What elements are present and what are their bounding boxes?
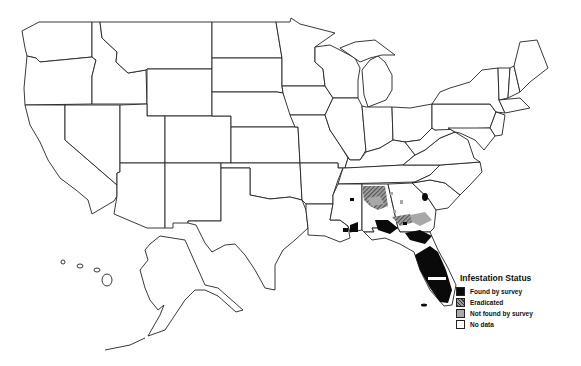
- keys-found: [421, 304, 427, 307]
- state-south-dakota: [212, 58, 283, 93]
- legend-item-found: Found by survey: [456, 286, 576, 297]
- state-massachusetts: [499, 98, 530, 113]
- legend-label: Not found by survey: [470, 310, 533, 317]
- state-washington: [22, 22, 92, 62]
- state-maine: [514, 40, 548, 92]
- legend-item-no-data: No data: [456, 319, 576, 330]
- legend-item-not-found: Not found by survey: [456, 308, 576, 319]
- state-oregon: [24, 56, 96, 105]
- legend-item-eradicated: Eradicated: [456, 297, 576, 308]
- swatch-not-found: [456, 309, 465, 318]
- hawaii-oahu: [77, 264, 83, 268]
- swatch-eradicated: [456, 298, 465, 307]
- state-kansas: [231, 127, 300, 163]
- state-alaska: [140, 236, 243, 336]
- area-not-found: [400, 200, 403, 204]
- state-arizona: [114, 163, 165, 228]
- state-new-mexico: [165, 163, 221, 228]
- area-not-found: [393, 210, 396, 213]
- area-not-found: [390, 192, 393, 195]
- legend-label: Found by survey: [470, 288, 522, 295]
- legend-label: No data: [470, 321, 494, 328]
- state-wyoming: [147, 69, 212, 116]
- hawaii-maui: [94, 268, 100, 272]
- hawaii-big-island: [102, 274, 112, 286]
- states-layer: [22, 18, 548, 306]
- swatch-found: [456, 287, 465, 296]
- area-found: [403, 222, 407, 225]
- area-found: [343, 228, 348, 232]
- aleutian-islands: [105, 338, 145, 350]
- legend-label: Eradicated: [470, 299, 503, 306]
- state-north-dakota: [212, 22, 282, 58]
- state-colorado: [165, 116, 231, 163]
- area-found: [422, 193, 428, 201]
- state-iowa: [282, 86, 333, 115]
- area-found: [350, 198, 354, 201]
- legend-title: Infestation Status: [460, 273, 576, 283]
- legend: Infestation Status Found by survey Eradi…: [456, 273, 576, 330]
- state-pennsylvania: [432, 104, 496, 130]
- inset-territories: [61, 236, 243, 350]
- hawaii-kauai: [61, 260, 65, 264]
- state-michigan: [362, 56, 392, 107]
- area-no-data: [428, 277, 446, 280]
- swatch-no-data: [456, 320, 465, 329]
